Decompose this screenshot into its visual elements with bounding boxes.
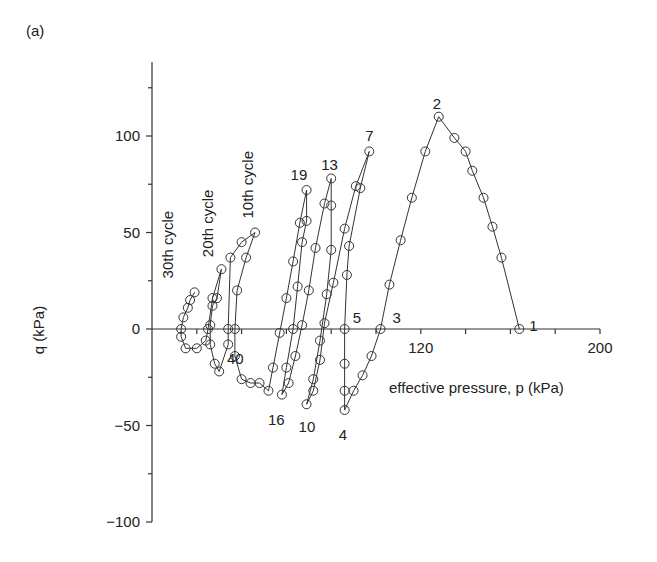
point-label-16: 16 — [268, 411, 285, 428]
point-label-7: 7 — [365, 127, 373, 144]
point-label-5: 5 — [353, 309, 361, 326]
point-label-3: 3 — [392, 309, 400, 326]
x-tick-label: 120 — [408, 339, 433, 356]
point-label-40: 40 — [227, 350, 244, 367]
y-tick-label: −50 — [115, 417, 140, 434]
data-point-marker — [217, 265, 226, 274]
point-label-19: 19 — [291, 166, 308, 183]
y-tick-label: 100 — [115, 127, 140, 144]
point-label-1: 1 — [529, 317, 537, 334]
axes: −100−50050100120200 — [106, 62, 612, 530]
plot-area — [177, 112, 524, 414]
cycle-label: 10th cycle — [239, 151, 256, 219]
cycle-label: 20th cycle — [199, 190, 216, 258]
y-tick-label: 0 — [132, 320, 140, 337]
y-tick-label: −100 — [106, 513, 140, 530]
point-label-10: 10 — [299, 418, 316, 435]
y-tick-label: 50 — [123, 224, 140, 241]
cycle-label: 30th cycle — [159, 211, 176, 279]
x-tick-label: 200 — [587, 339, 612, 356]
stress-path-chart: −100−50050100120200 123457101316194030th… — [0, 0, 657, 562]
y-axis-label: q (kPa) — [30, 306, 47, 354]
x-axis-label: effective pressure, p (kPa) — [389, 379, 564, 396]
point-label-4: 4 — [339, 426, 347, 443]
point-label-2: 2 — [433, 95, 441, 112]
point-label-13: 13 — [321, 156, 338, 173]
